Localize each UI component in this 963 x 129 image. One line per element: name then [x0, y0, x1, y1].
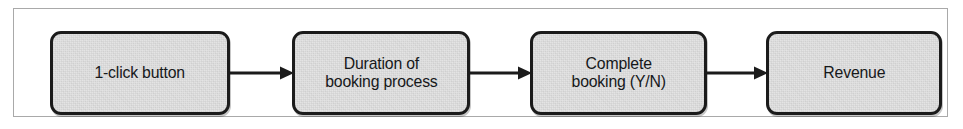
flow-node-label: 1-click button — [89, 64, 191, 82]
flow-node-duration-of-booking-process: Duration of booking process — [292, 31, 470, 115]
flow-node-label: Duration of booking process — [319, 55, 443, 91]
flow-node-complete-booking: Complete booking (Y/N) — [530, 31, 707, 115]
flow-node-label: Complete booking (Y/N) — [566, 55, 671, 91]
flow-arrow-right-icon — [228, 65, 294, 81]
flow-arrow-right-icon — [705, 65, 768, 81]
flow-node-label: Revenue — [817, 64, 890, 82]
flow-node-revenue: Revenue — [766, 31, 942, 115]
flow-arrow-right-icon — [468, 65, 532, 81]
diagram-frame: 1-click button Duration of booking proce… — [13, 8, 948, 117]
flow-node-1-click-button: 1-click button — [50, 31, 230, 115]
flow-diagram-figure: 1-click button Duration of booking proce… — [0, 0, 963, 129]
